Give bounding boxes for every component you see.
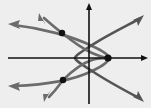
intersection-point-lower-left — [60, 77, 66, 83]
graph-canvas — [0, 0, 151, 108]
intersection-point-upper-left — [59, 30, 65, 36]
intersection-point-right — [104, 54, 111, 61]
graph-figure — [0, 0, 151, 108]
